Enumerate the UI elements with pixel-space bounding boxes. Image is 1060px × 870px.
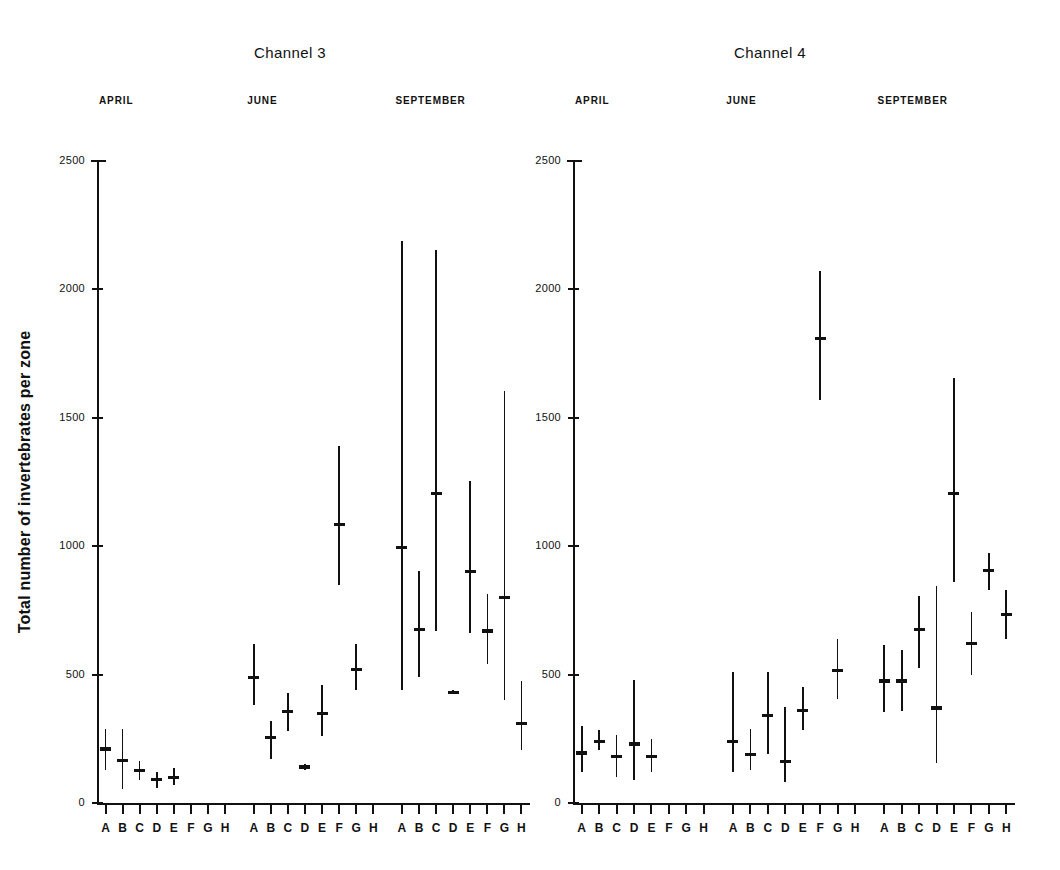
- y-tick-2000: [568, 288, 579, 290]
- data-point-september-F: [966, 642, 977, 645]
- data-point-april-E: [646, 755, 657, 758]
- data-point-april-E: [168, 776, 179, 779]
- x-tick-label-september-H: H: [996, 821, 1016, 835]
- data-point-june-D: [780, 760, 791, 763]
- month-label-june: JUNE: [247, 95, 277, 106]
- data-point-september-H: [516, 722, 527, 725]
- data-point-september-E: [465, 570, 476, 573]
- x-tick-label-april-H: H: [215, 821, 235, 835]
- x-tick-april-E: [173, 805, 175, 814]
- data-point-april-D: [151, 778, 162, 781]
- x-tick-april-E: [650, 805, 652, 814]
- data-point-september-B: [414, 628, 425, 631]
- x-tick-april-D: [156, 805, 158, 814]
- data-point-june-A: [248, 676, 259, 679]
- x-tick-september-A: [401, 805, 403, 814]
- x-tick-april-D: [633, 805, 635, 814]
- data-point-september-A: [879, 679, 890, 682]
- y-tick-label-500: 500: [511, 668, 561, 680]
- data-point-june-G: [351, 668, 362, 671]
- y-tick-label-0: 0: [511, 796, 561, 808]
- x-tick-april-G: [207, 805, 209, 814]
- data-point-june-F: [815, 337, 826, 340]
- x-tick-june-A: [253, 805, 255, 814]
- data-point-june-G: [832, 669, 843, 672]
- y-tick-2500: [567, 160, 582, 162]
- x-axis-line: [97, 803, 530, 805]
- y-tick-label-2500: 2500: [511, 154, 561, 166]
- data-point-april-A: [576, 751, 587, 754]
- y-axis-line: [97, 161, 99, 805]
- data-point-september-C: [431, 492, 442, 495]
- month-label-april: APRIL: [575, 95, 610, 106]
- x-tick-june-A: [732, 805, 734, 814]
- data-point-september-B: [896, 679, 907, 682]
- x-tick-september-E: [469, 805, 471, 814]
- error-bar-september-A: [401, 241, 403, 690]
- x-tick-label-june-H: H: [845, 821, 865, 835]
- x-tick-june-C: [287, 805, 289, 814]
- x-tick-june-F: [819, 805, 821, 814]
- month-label-april: APRIL: [99, 95, 134, 106]
- y-axis-title: Total number of invertebrates per zone: [10, 161, 40, 803]
- month-label-september: SEPTEMBER: [878, 95, 948, 106]
- data-point-april-A: [100, 747, 111, 750]
- error-bar-june-A: [732, 672, 734, 772]
- x-tick-september-G: [503, 805, 505, 814]
- x-tick-june-E: [802, 805, 804, 814]
- data-point-september-G: [983, 569, 994, 572]
- error-bar-september-E: [953, 378, 955, 582]
- data-point-april-C: [134, 769, 145, 772]
- y-tick-label-2000: 2000: [35, 282, 85, 294]
- x-tick-june-C: [767, 805, 769, 814]
- x-tick-label-september-H: H: [511, 821, 531, 835]
- x-tick-label-june-H: H: [363, 821, 383, 835]
- x-tick-june-D: [304, 805, 306, 814]
- y-tick-1000: [92, 545, 103, 547]
- data-point-september-F: [482, 629, 493, 632]
- month-label-september: SEPTEMBER: [395, 95, 465, 106]
- error-bar-september-C: [918, 596, 920, 668]
- y-tick-2500: [91, 160, 106, 162]
- x-tick-june-E: [321, 805, 323, 814]
- x-tick-june-H: [372, 805, 374, 814]
- x-tick-september-D: [936, 805, 938, 814]
- x-tick-september-H: [1005, 805, 1007, 814]
- error-bar-june-F: [338, 446, 340, 585]
- x-tick-september-E: [953, 805, 955, 814]
- y-tick-label-1500: 1500: [35, 411, 85, 423]
- x-tick-april-H: [224, 805, 226, 814]
- x-tick-june-G: [837, 805, 839, 814]
- error-bar-september-G: [504, 391, 506, 700]
- x-tick-september-B: [418, 805, 420, 814]
- x-tick-april-B: [598, 805, 600, 814]
- x-tick-september-C: [435, 805, 437, 814]
- y-tick-2000: [92, 288, 103, 290]
- data-point-april-C: [611, 755, 622, 758]
- y-tick-1000: [568, 545, 579, 547]
- y-tick-label-1500: 1500: [511, 411, 561, 423]
- x-tick-april-A: [105, 805, 107, 814]
- x-tick-september-C: [918, 805, 920, 814]
- data-point-june-E: [797, 709, 808, 712]
- x-tick-september-A: [883, 805, 885, 814]
- x-tick-april-B: [122, 805, 124, 814]
- data-point-june-B: [265, 736, 276, 739]
- data-point-june-C: [282, 710, 293, 713]
- data-point-september-G: [499, 596, 510, 599]
- y-tick-label-2500: 2500: [35, 154, 85, 166]
- y-tick-label-1000: 1000: [35, 539, 85, 551]
- panel-title-1: Channel 3: [170, 44, 410, 61]
- error-bar-september-H: [521, 681, 523, 750]
- error-bar-september-E: [469, 481, 471, 634]
- error-bar-september-D: [936, 586, 938, 763]
- data-point-september-A: [396, 546, 407, 549]
- x-tick-september-F: [486, 805, 488, 814]
- data-point-september-C: [914, 628, 925, 631]
- y-tick-label-1000: 1000: [511, 539, 561, 551]
- error-bar-june-B: [270, 721, 272, 760]
- month-label-june: JUNE: [726, 95, 756, 106]
- data-point-june-C: [762, 714, 773, 717]
- error-bar-june-D: [784, 707, 786, 783]
- y-tick-label-500: 500: [35, 668, 85, 680]
